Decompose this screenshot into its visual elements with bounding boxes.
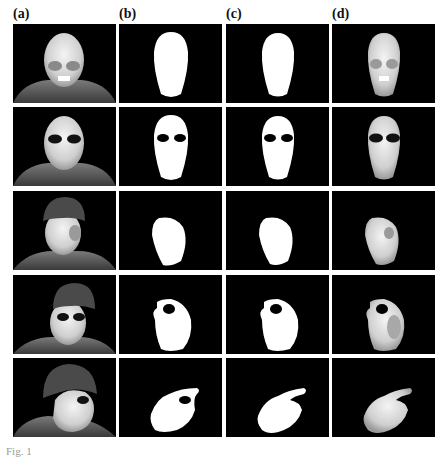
segmented-face-row1 (332, 24, 435, 103)
face-mask-c-row3 (226, 191, 329, 270)
segmented-face-row5 (332, 358, 435, 437)
column-label-a: (a) (13, 6, 29, 22)
face-mask-c-row1 (226, 24, 329, 103)
face-mask-b-row3 (119, 191, 222, 270)
face-mask-c-row5 (226, 358, 329, 437)
segmented-face-row4 (332, 275, 435, 354)
column-label-d: (d) (332, 6, 349, 22)
segmented-face-row3 (332, 191, 435, 270)
face-mask-b-row2 (119, 107, 222, 186)
thermal-image-row4 (13, 275, 116, 354)
thermal-image-row2 (13, 107, 116, 186)
face-mask-b-row1 (119, 24, 222, 103)
face-mask-b-row5 (119, 358, 222, 437)
column-label-c: (c) (226, 6, 242, 22)
thermal-image-row5 (13, 358, 116, 437)
column-label-b: (b) (119, 6, 136, 22)
figure-caption: Fig. 1 (6, 445, 32, 457)
face-mask-c-row2 (226, 107, 329, 186)
segmented-face-row2 (332, 107, 435, 186)
thermal-image-row1 (13, 24, 116, 103)
face-mask-c-row4 (226, 275, 329, 354)
thermal-image-row3 (13, 191, 116, 270)
face-mask-b-row4 (119, 275, 222, 354)
